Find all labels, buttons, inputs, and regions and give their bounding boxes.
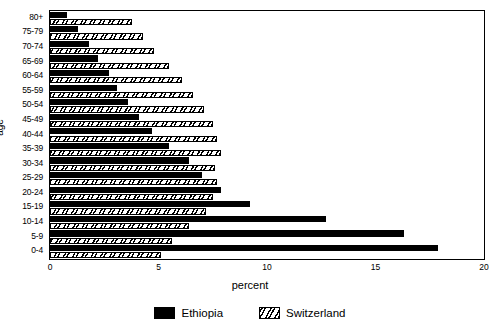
bar-switzerland-50-54 <box>50 106 204 112</box>
bar-switzerland-20-24 <box>50 194 213 200</box>
y-tick-label-75-79: 75-79 <box>22 27 43 36</box>
y-tick-label-45-49: 45-49 <box>22 115 43 124</box>
bar-ethiopia-30-34 <box>50 157 189 163</box>
population-pyramid-chart: 0-45-910-1415-1920-2425-2930-3435-3940-4… <box>0 0 500 327</box>
y-tick-label-40-44: 40-44 <box>22 130 43 139</box>
legend-label-switzerland: Switzerland <box>286 307 345 319</box>
x-tick-label-0: 0 <box>48 262 53 272</box>
bar-ethiopia-60-64 <box>50 70 109 76</box>
bar-ethiopia-75-79 <box>50 26 78 32</box>
bar-switzerland-25-29 <box>50 179 217 185</box>
x-axis-tick-labels: 05101520 <box>0 262 500 276</box>
bar-ethiopia-20-24 <box>50 187 221 193</box>
legend-item-ethiopia: Ethiopia <box>154 307 223 319</box>
y-tick-label-55-59: 55-59 <box>22 86 43 95</box>
bar-switzerland-70-74 <box>50 48 154 54</box>
bar-ethiopia-50-54 <box>50 99 128 105</box>
bar-switzerland-60-64 <box>50 77 182 83</box>
y-tick-label-70-74: 70-74 <box>22 42 43 51</box>
bar-ethiopia-65-69 <box>50 55 98 61</box>
y-axis-tick-labels: 0-45-910-1415-1920-2425-2930-3435-3940-4… <box>0 10 46 260</box>
bar-switzerland-40-44 <box>50 136 217 142</box>
bar-ethiopia-80+ <box>50 12 67 18</box>
y-tick-label-30-34: 30-34 <box>22 159 43 168</box>
legend-swatch-switzerland <box>259 307 280 319</box>
bar-switzerland-5-9 <box>50 238 172 244</box>
bar-switzerland-55-59 <box>50 92 193 98</box>
legend-item-switzerland: Switzerland <box>259 307 345 319</box>
bar-switzerland-75-79 <box>50 33 143 39</box>
bar-switzerland-65-69 <box>50 63 169 69</box>
y-axis-title: age <box>0 119 5 136</box>
bar-ethiopia-0-4 <box>50 245 438 251</box>
legend-swatch-ethiopia <box>154 307 175 319</box>
legend-label-ethiopia: Ethiopia <box>181 307 223 319</box>
y-tick-label-60-64: 60-64 <box>22 71 43 80</box>
bar-switzerland-30-34 <box>50 165 215 171</box>
bar-switzerland-10-14 <box>50 223 189 229</box>
bar-switzerland-35-39 <box>50 150 221 156</box>
chart-legend: Ethiopia Switzerland <box>0 303 500 323</box>
x-tick-label-10: 10 <box>262 262 271 272</box>
bar-ethiopia-25-29 <box>50 172 202 178</box>
x-tick-label-15: 15 <box>371 262 380 272</box>
y-tick-label-10-14: 10-14 <box>22 217 43 226</box>
y-tick-label-50-54: 50-54 <box>22 100 43 109</box>
bar-switzerland-80+ <box>50 19 132 25</box>
bar-ethiopia-10-14 <box>50 216 326 222</box>
bar-ethiopia-35-39 <box>50 143 169 149</box>
bars-container <box>50 11 484 259</box>
y-tick-label-25-29: 25-29 <box>22 173 43 182</box>
bar-switzerland-15-19 <box>50 208 206 214</box>
x-axis-title: percent <box>0 279 500 291</box>
bar-switzerland-45-49 <box>50 121 213 127</box>
y-tick-label-20-24: 20-24 <box>22 188 43 197</box>
y-tick-label-65-69: 65-69 <box>22 57 43 66</box>
y-tick-label-0-4: 0-4 <box>31 246 43 255</box>
bar-ethiopia-70-74 <box>50 41 89 47</box>
bar-switzerland-0-4 <box>50 252 161 258</box>
y-tick-label-80+: 80+ <box>29 13 43 22</box>
x-tick-label-20: 20 <box>479 262 488 272</box>
y-tick-label-15-19: 15-19 <box>22 202 43 211</box>
bar-ethiopia-15-19 <box>50 201 250 207</box>
bar-ethiopia-5-9 <box>50 230 404 236</box>
y-tick-label-35-39: 35-39 <box>22 144 43 153</box>
x-tick-label-5: 5 <box>156 262 161 272</box>
y-tick-label-5-9: 5-9 <box>31 232 43 241</box>
bar-ethiopia-45-49 <box>50 114 139 120</box>
bar-ethiopia-40-44 <box>50 128 152 134</box>
bar-ethiopia-55-59 <box>50 85 117 91</box>
